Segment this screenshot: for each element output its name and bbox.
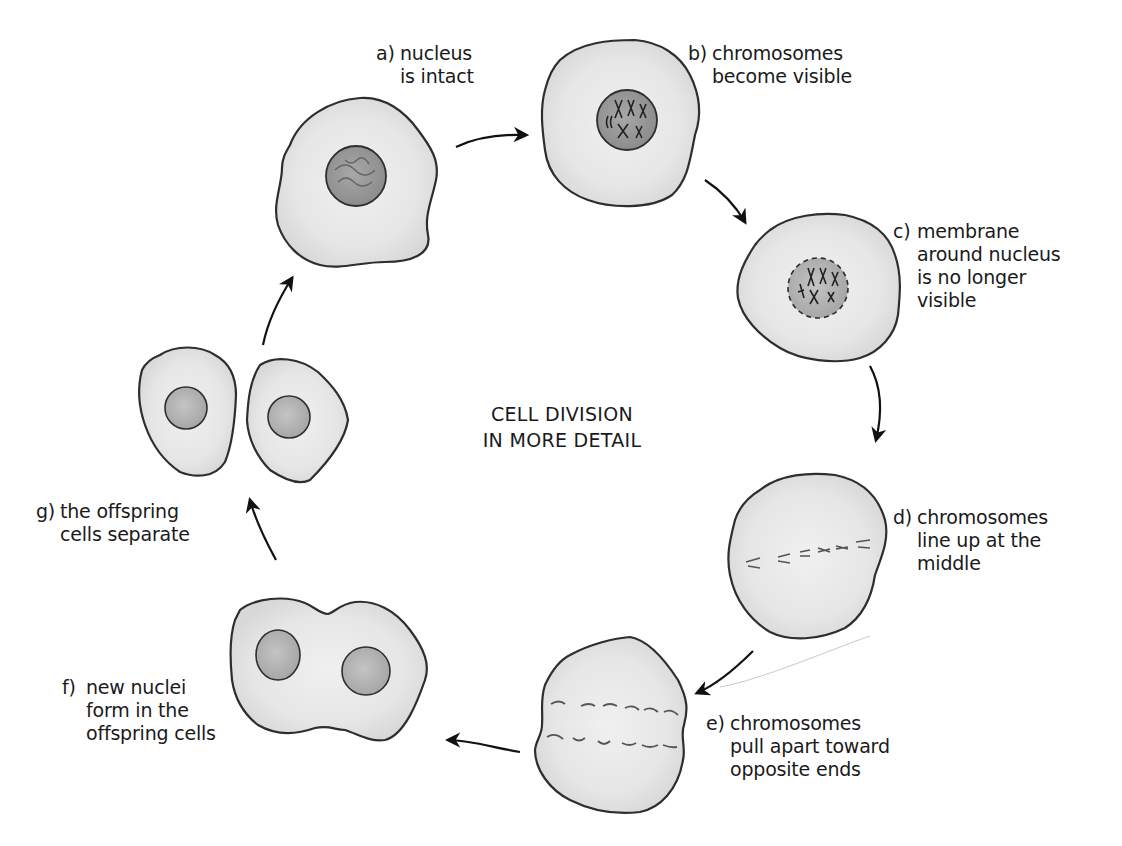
stage-marker: g) <box>36 500 55 523</box>
stage-marker: a) <box>376 42 395 65</box>
cell-stage-b <box>542 40 699 206</box>
label-stage-a: a) nucleus is intact <box>376 42 474 88</box>
cell-stage-c <box>737 214 899 361</box>
diagram-title: CELL DIVISION IN MORE DETAIL <box>442 401 682 453</box>
stage-description: new nuclei form in the offspring cells <box>62 676 216 745</box>
stage-description: chromosomes pull apart toward opposite e… <box>706 712 890 781</box>
arrow-b-to-c <box>705 180 745 222</box>
label-stage-e: e) chromosomes pull apart toward opposit… <box>706 712 890 781</box>
arrow-f-to-g <box>250 500 276 560</box>
stage-marker: b) <box>688 42 707 65</box>
label-stage-b: b) chromosomes become visible <box>688 42 852 88</box>
cell-stage-f <box>231 599 427 741</box>
cell-stage-e <box>535 637 686 813</box>
stage-marker: e) <box>706 712 725 735</box>
arrow-g-to-a <box>263 278 292 345</box>
label-stage-c: c) membrane around nucleus is no longer … <box>893 220 1061 312</box>
arrow-e-to-f <box>448 740 520 752</box>
stage-description: chromosomes line up at the middle <box>893 506 1048 575</box>
title-line-2: IN MORE DETAIL <box>442 427 682 453</box>
stage-marker: c) <box>893 220 910 243</box>
stage-marker: d) <box>893 506 912 529</box>
arrow-a-to-b <box>456 135 526 147</box>
cell-stage-d <box>728 474 886 639</box>
label-stage-d: d) chromosomes line up at the middle <box>893 506 1048 575</box>
arrow-c-to-d <box>870 366 880 440</box>
stage-description: the offspring cells separate <box>36 500 190 546</box>
title-line-1: CELL DIVISION <box>442 401 682 427</box>
cell-stage-g <box>139 348 348 482</box>
cell-stage-a <box>276 98 437 267</box>
stage-marker: f) <box>62 676 76 699</box>
label-stage-g: g) the offspring cells separate <box>36 500 190 546</box>
stage-description: membrane around nucleus is no longer vis… <box>893 220 1061 312</box>
nucleus-icon <box>326 146 386 206</box>
label-stage-f: f) new nuclei form in the offspring cell… <box>62 676 216 745</box>
stage-description: chromosomes become visible <box>688 42 852 88</box>
arrow-d-to-e <box>697 651 753 693</box>
